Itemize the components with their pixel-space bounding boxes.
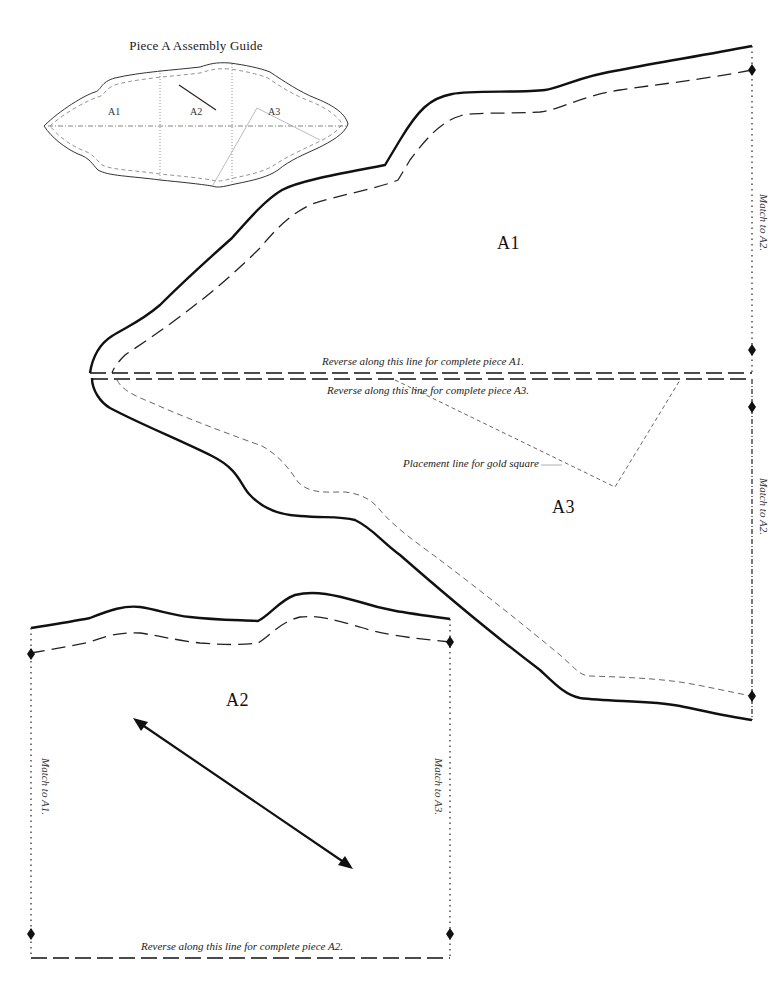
- a2-match-right-note: Match to A3.: [433, 758, 445, 815]
- a2-cut-line: [31, 593, 450, 628]
- a3-match-notch-bottom: [748, 690, 756, 702]
- a2-match-notch-bottom-left: [27, 928, 35, 940]
- a3-reverse-note: Reverse along this line for complete pie…: [327, 384, 529, 396]
- guide-label-a2: A2: [190, 106, 202, 117]
- guide-label-a3: A3: [268, 106, 280, 117]
- a3-match-notch-top: [748, 401, 756, 413]
- a2-match-left-note: Match to A1.: [40, 758, 52, 815]
- a3-match-note: Match to A2.: [758, 478, 770, 535]
- assembly-guide-title: Piece A Assembly Guide: [0, 38, 392, 54]
- a2-match-notch-top-right: [446, 636, 454, 648]
- assembly-guide-diagram: [44, 63, 348, 187]
- a2-reverse-note: Reverse along this line for complete pie…: [141, 940, 343, 952]
- guide-label-a1: A1: [108, 106, 120, 117]
- piece-a1: [90, 46, 756, 373]
- a1-match-notch-top: [748, 64, 756, 76]
- a1-cut-line: [90, 46, 752, 373]
- piece-a2: [27, 593, 454, 958]
- guide-outline-cut: [44, 63, 348, 187]
- guide-placement-line: [213, 108, 320, 185]
- a1-reverse-note: Reverse along this line for complete pie…: [322, 355, 524, 367]
- a1-match-note: Match to A2.: [758, 194, 770, 251]
- gold-square-placement-note: Placement line for gold square: [403, 457, 539, 469]
- a2-seam-line: [31, 617, 450, 653]
- guide-outline-seam: [50, 69, 342, 181]
- a1-seam-line: [112, 70, 752, 373]
- piece-a3: [92, 378, 756, 720]
- gold-square-placement-line: [395, 380, 680, 487]
- a3-seam-line: [117, 380, 752, 696]
- piece-label-a3: A3: [552, 497, 575, 518]
- a2-match-notch-bottom-right: [446, 928, 454, 940]
- a3-cut-line: [92, 378, 752, 720]
- piece-label-a1: A1: [497, 233, 520, 254]
- piece-label-a2: A2: [226, 690, 249, 711]
- pattern-artwork: [0, 0, 772, 993]
- grainline-arrow: [133, 718, 353, 869]
- a2-match-notch-top-left: [27, 648, 35, 660]
- a1-match-notch-bottom: [748, 344, 756, 356]
